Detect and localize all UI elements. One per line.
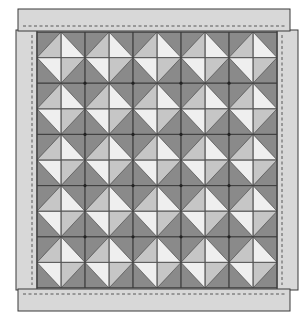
seam-intersection-dot xyxy=(179,235,182,238)
quilt-block xyxy=(85,83,133,134)
quilt-block xyxy=(37,83,85,134)
border-strip-bottom xyxy=(18,289,290,311)
quilt-block xyxy=(37,186,85,237)
quilt-block xyxy=(85,237,133,288)
seam-intersection-dot xyxy=(227,133,230,136)
quilt-block xyxy=(181,186,229,237)
seam-intersection-dot xyxy=(131,235,134,238)
seam-intersection-dot xyxy=(227,82,230,85)
border-strip-top xyxy=(18,9,290,31)
quilt-block xyxy=(85,134,133,185)
quilt-diagram xyxy=(0,0,305,319)
seam-intersection-dot xyxy=(131,133,134,136)
quilt-block xyxy=(37,134,85,185)
quilt-block xyxy=(37,237,85,288)
quilt-block xyxy=(85,32,133,83)
seam-intersection-dot xyxy=(131,184,134,187)
quilt-block xyxy=(229,237,277,288)
seam-intersection-dot xyxy=(227,235,230,238)
quilt-block xyxy=(181,237,229,288)
quilt-block xyxy=(181,134,229,185)
quilt-block xyxy=(133,186,181,237)
pieced-field xyxy=(37,32,277,288)
quilt-block xyxy=(229,134,277,185)
quilt-block xyxy=(181,32,229,83)
seam-intersection-dot xyxy=(83,184,86,187)
seam-intersection-dot xyxy=(227,184,230,187)
quilt-diagram-stage: Quilt Block Layout Diagram quarter-squar… xyxy=(0,0,305,319)
seam-intersection-dot xyxy=(179,82,182,85)
quilt-block xyxy=(133,83,181,134)
seam-intersection-dot xyxy=(179,184,182,187)
seam-intersection-dot xyxy=(83,235,86,238)
quilt-block xyxy=(229,32,277,83)
quilt-block xyxy=(181,83,229,134)
quilt-block xyxy=(85,186,133,237)
quilt-block xyxy=(37,32,85,83)
border-strip-right xyxy=(277,30,298,290)
quilt-block xyxy=(133,134,181,185)
seam-intersection-dot xyxy=(179,133,182,136)
border-strip-left xyxy=(16,30,37,290)
quilt-block xyxy=(133,237,181,288)
seam-intersection-dot xyxy=(131,82,134,85)
quilt-block xyxy=(229,83,277,134)
seam-intersection-dot xyxy=(83,133,86,136)
quilt-block xyxy=(229,186,277,237)
seam-intersection-dot xyxy=(83,82,86,85)
quilt-block xyxy=(133,32,181,83)
